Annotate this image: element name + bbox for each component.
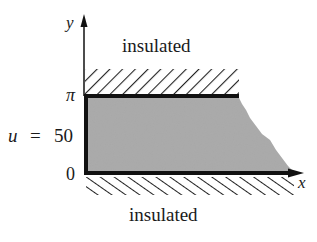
bottom-boundary-label: insulated <box>129 204 198 225</box>
left-condition-equals: = <box>30 125 41 146</box>
heat-strip-diagram: y insulated x π 0 u = 50 insulated <box>0 0 317 242</box>
y-tick-zero: 0 <box>66 164 75 184</box>
y-axis-label: y <box>64 13 74 32</box>
left-condition-var: u <box>8 125 18 146</box>
left-condition-value: 50 <box>54 125 73 146</box>
shaded-region <box>86 96 294 172</box>
y-axis-arrow-icon <box>81 14 88 27</box>
bottom-insulation-hatch <box>86 177 294 195</box>
y-tick-pi: π <box>66 85 76 105</box>
top-boundary-label: insulated <box>122 35 191 56</box>
x-axis-label: x <box>297 173 306 192</box>
top-insulation-hatch <box>85 69 239 95</box>
